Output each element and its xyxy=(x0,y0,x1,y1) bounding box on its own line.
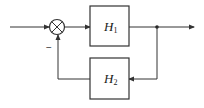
block-h1-label: H xyxy=(103,19,114,34)
feedback-minus-sign: − xyxy=(46,42,52,53)
block-h2: H 2 xyxy=(90,58,129,99)
block-h2-subscript: 2 xyxy=(114,78,118,87)
feedback-block-diagram: H 1 H 2 − xyxy=(0,0,204,108)
block-h1-subscript: 1 xyxy=(114,26,118,35)
h2-to-sum-arrow xyxy=(58,35,90,79)
block-h1: H 1 xyxy=(90,6,129,46)
summing-junction xyxy=(50,20,65,35)
block-h2-label: H xyxy=(103,71,114,86)
feedback-to-h2-line xyxy=(129,27,157,79)
